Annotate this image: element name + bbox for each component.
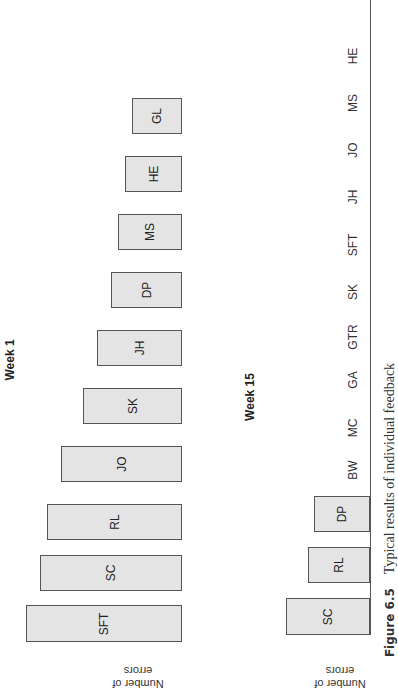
category-label-sft: SFT	[346, 234, 360, 257]
bar-label: SC	[321, 608, 335, 625]
baseline-axis-week-15	[370, 0, 371, 635]
bar-sk: SK	[83, 388, 182, 424]
bar-label: MS	[143, 223, 157, 241]
bar-label: JO	[115, 456, 129, 471]
figure-caption-text: Typical results of individual feedback	[382, 363, 397, 574]
bar-rl: RL	[47, 504, 182, 540]
y-axis-label-line-2: errors	[314, 664, 365, 677]
bar-ms: MS	[118, 214, 182, 250]
category-label-mc: MC	[346, 419, 360, 438]
category-label-gtr: GTR	[346, 324, 360, 349]
bar-sc: SC	[40, 555, 182, 591]
y-axis-label-week-15: Number of errors	[314, 664, 365, 690]
bar-rl: RL	[308, 547, 370, 583]
category-label-ga: GA	[346, 371, 360, 388]
y-axis-label-line-1: Number of	[314, 677, 365, 690]
bar-label: DP	[335, 506, 349, 523]
figure-caption: Figure 6.5Typical results of individual …	[382, 363, 398, 657]
y-axis-label-line-1: Number of	[112, 677, 163, 690]
bar-label: RL	[332, 557, 346, 572]
chart-title-week-15: Week 15	[243, 373, 257, 421]
y-axis-label-week-1: Number of errors	[112, 664, 163, 690]
bar-label: SC	[104, 565, 118, 582]
bar-dp: DP	[314, 496, 370, 532]
bar-label: SK	[126, 398, 140, 414]
y-axis-label-line-2: errors	[112, 664, 163, 677]
bar-label: DP	[140, 282, 154, 299]
bar-he: HE	[125, 156, 182, 192]
category-label-jh: JH	[346, 190, 360, 205]
bar-sc: SC	[286, 598, 370, 635]
bar-jh: JH	[97, 330, 182, 366]
bar-sft: SFT	[26, 605, 182, 642]
figure-number: Figure 6.5	[383, 588, 397, 657]
bar-label: RL	[108, 514, 122, 529]
bar-label: SFT	[97, 612, 111, 635]
bar-dp: DP	[111, 272, 182, 308]
category-label-sk: SK	[346, 284, 360, 300]
category-label-bw: BW	[346, 460, 360, 479]
bar-label: HE	[147, 166, 161, 183]
bar-label: JH	[133, 341, 147, 356]
category-label-ms: MS	[346, 94, 360, 112]
bar-gl: GL	[132, 98, 182, 134]
bar-label: GL	[150, 108, 164, 124]
chart-title-week-1: Week 1	[3, 339, 17, 380]
category-label-he: HE	[346, 48, 360, 65]
bar-jo: JO	[61, 446, 182, 482]
category-label-jo: JO	[346, 142, 360, 157]
